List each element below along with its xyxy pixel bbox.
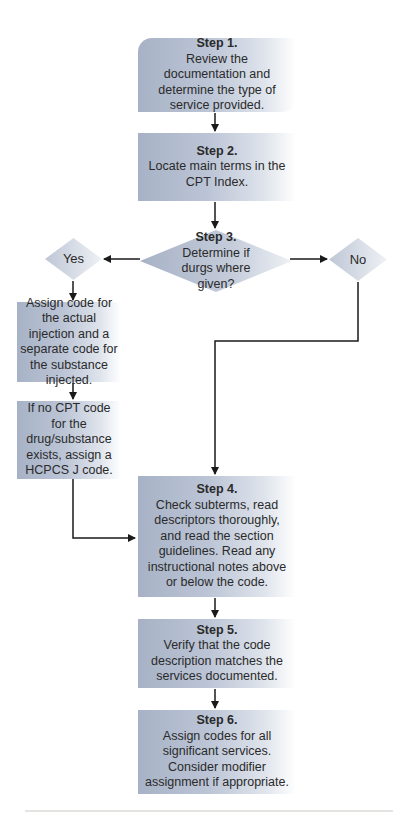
step-1-title: Step 1. (197, 36, 238, 52)
step-6-box: Step 6. Assign codes for all significant… (138, 710, 296, 794)
step-6-text: Assign codes for all significant service… (144, 729, 290, 791)
footer-divider (25, 810, 393, 812)
step-5-text: Verify that the code description matches… (144, 638, 290, 685)
step-6-title: Step 6. (197, 713, 238, 729)
step-4-box: Step 4. Check subterms, read descriptors… (138, 476, 296, 597)
no-label: No (329, 238, 387, 281)
step-4-text: Check subterms, read descriptors thoroug… (144, 498, 290, 591)
step-4-title: Step 4. (197, 482, 238, 498)
no-decision-diamond: No (329, 238, 387, 281)
step-5-box: Step 5. Verify that the code description… (138, 619, 296, 688)
step-2-title: Step 2. (197, 144, 238, 160)
step-3-title: Step 3. (196, 230, 237, 246)
step-1-box: Step 1. Review the documentation and det… (138, 38, 296, 112)
yes-branch-box-injection: Assign code for the actual injection and… (17, 302, 121, 382)
step-3-decision-diamond: Step 3. Determine if durgs where given? (140, 230, 292, 292)
step-5-title: Step 5. (197, 623, 238, 639)
step-1-text: Review the documentation and determine t… (144, 52, 290, 114)
yes-branch-text-1: Assign code for the actual injection and… (20, 296, 118, 389)
step-2-box: Step 2. Locate main terms in the CPT Ind… (138, 133, 296, 201)
yes-label: Yes (45, 238, 102, 280)
yes-branch-text-2: If no CPT code for the drug/substance ex… (20, 401, 118, 479)
yes-decision-diamond: Yes (45, 238, 102, 280)
step-2-text: Locate main terms in the CPT Index. (144, 159, 290, 190)
step-3-text: Determine if durgs where given? (170, 246, 262, 293)
yes-branch-box-hcpcs: If no CPT code for the drug/substance ex… (17, 401, 121, 479)
